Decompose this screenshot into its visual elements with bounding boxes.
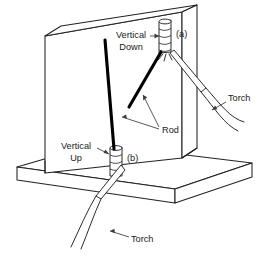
torch-upper-label: Torch (228, 93, 250, 103)
vertical-up-label-line2: Up (70, 153, 82, 163)
torch-b-hose-left-edge (71, 196, 96, 247)
weld-bead-a (159, 19, 171, 53)
figure-canvas: Vertical Down (a) Vertical Up (b) Rod (0, 0, 270, 269)
welding-positions-figure: Vertical Down (a) Vertical Up (b) Rod (0, 0, 270, 269)
torch-lower-arrowhead (110, 229, 115, 234)
weld-bead-a-top-cap (159, 19, 171, 24)
weld-bead-b-top-cap (110, 146, 122, 151)
vertical-up-label-line1: Vertical (61, 141, 91, 151)
torch-lower-label: Torch (131, 234, 153, 244)
vertical-down-label-line2: Down (119, 42, 143, 52)
torch-b-hose-right-edge (81, 199, 101, 249)
callout-a-label: (a) (176, 29, 187, 39)
label-torch-lower: Torch (110, 229, 153, 245)
vertical-down-label-line1: Vertical (116, 30, 146, 40)
rod-label: Rod (162, 125, 179, 135)
callout-b-label: (b) (127, 153, 138, 163)
